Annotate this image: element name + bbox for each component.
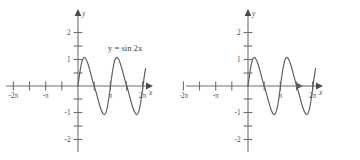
- x-axis-label: x: [148, 88, 153, 97]
- x-tick-label-neg-2pi: -2π: [9, 92, 19, 100]
- left-equation-text: y = sin 2x: [108, 43, 142, 53]
- figure-row: -2π -π π 2π 2 1 -1 -2 x y y = sin 2x: [0, 0, 360, 160]
- x-axis-label: x: [318, 88, 323, 97]
- y-tick-label-neg-1: -1: [235, 109, 241, 117]
- x-tick-label-neg-2pi: -2π: [180, 92, 189, 100]
- x-tick-label-2pi: 2π: [309, 92, 317, 100]
- y-axis-label: y: [251, 9, 256, 18]
- y-tick-label-neg-2: -2: [65, 136, 71, 144]
- y-tick-label-2: 2: [67, 29, 71, 37]
- y-tick-label-1: 1: [237, 56, 241, 64]
- x-tick-label-neg-pi: -π: [213, 92, 219, 100]
- right-panel: -2π -π π 2π 2 1 -1 -2 x y y = 2tan x 1 +…: [180, 0, 360, 160]
- right-panel-plot: -2π -π π 2π 2 1 -1 -2 x y: [180, 0, 360, 160]
- left-panel-plot: -2π -π π 2π 2 1 -1 -2 x y: [0, 0, 180, 160]
- left-panel: -2π -π π 2π 2 1 -1 -2 x y y = sin 2x: [0, 0, 180, 160]
- y-axis-arrow-icon: [245, 9, 252, 16]
- y-tick-label-neg-1: -1: [65, 109, 71, 117]
- y-axis-arrow-icon: [75, 9, 82, 16]
- y-tick-label-1: 1: [67, 56, 71, 64]
- y-axis-label: y: [81, 9, 86, 18]
- x-tick-label-neg-pi: -π: [43, 92, 49, 100]
- y-tick-label-neg-2: -2: [235, 136, 241, 144]
- left-equation-label: y = sin 2x: [108, 44, 142, 53]
- x-tick-label-2pi: 2π: [139, 92, 147, 100]
- y-tick-label-2: 2: [237, 29, 241, 37]
